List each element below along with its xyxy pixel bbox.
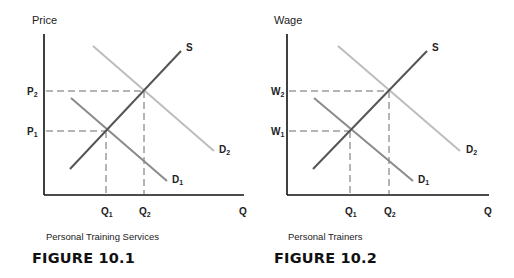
p1-label: P1 [27, 126, 38, 138]
figure-caption: Personal Trainers [288, 231, 363, 242]
figure-title: FIGURE 10.1 [32, 250, 135, 266]
demand-curve-d1 [71, 98, 167, 181]
q1-label: Q1 [345, 206, 357, 218]
figure-caption: Personal Training Services [46, 231, 159, 242]
w1-label: W1 [271, 126, 284, 138]
q1-label: Q1 [101, 206, 113, 218]
figure-title: FIGURE 10.2 [274, 250, 377, 266]
p2-label: P2 [27, 86, 38, 98]
y-axis-label: Wage [274, 14, 302, 26]
supply-curve [313, 51, 427, 169]
d1-label: D1 [418, 174, 429, 186]
demand-curve-d2 [93, 46, 214, 151]
supply-label: S [186, 42, 193, 53]
d2-label: D2 [219, 144, 230, 156]
x-axis-label: Q [239, 206, 247, 217]
d1-label: D1 [172, 174, 183, 186]
figure-1: Price S D2 D1 P2 P1 Q1 Q2 Q Personal Tra… [27, 14, 247, 266]
d2-label: D2 [466, 144, 477, 156]
y-axis-label: Price [32, 14, 57, 26]
supply-label: S [432, 42, 439, 53]
supply-curve [70, 51, 181, 169]
x-axis-label: Q [484, 206, 492, 217]
demand-curve-d2 [338, 46, 460, 151]
q2-label: Q2 [139, 206, 151, 218]
q2-label: Q2 [384, 206, 396, 218]
supply-demand-diagrams: Price S D2 D1 P2 P1 Q1 Q2 Q Personal Tra… [0, 0, 514, 278]
figure-2: Wage S D2 D1 W2 W1 Q1 Q2 Q Personal Trai… [271, 14, 492, 266]
demand-curve-d1 [314, 98, 413, 181]
w2-label: W2 [271, 86, 284, 98]
